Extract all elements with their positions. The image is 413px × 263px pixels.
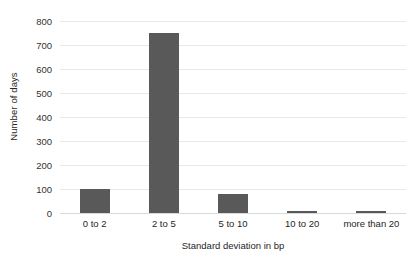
gridline — [60, 213, 406, 214]
bar-chart-figure: Number of days 0100200300400500600700800… — [0, 0, 413, 263]
bar — [218, 194, 248, 213]
y-axis-tick-label: 700 — [36, 40, 52, 51]
bar — [356, 211, 386, 213]
y-axis-tick-label: 500 — [36, 88, 52, 99]
x-axis-tick-label: 10 to 20 — [285, 218, 319, 229]
y-axis-tick-labels: 0100200300400500600700800 — [20, 21, 56, 213]
x-axis-tick-label: 5 to 10 — [218, 218, 247, 229]
y-axis-tick-label: 0 — [47, 208, 52, 219]
x-axis-tick-label: more than 20 — [343, 218, 399, 229]
bar — [80, 189, 110, 213]
y-axis-title-text: Number of days — [8, 72, 19, 140]
x-axis-tick-label: 2 to 5 — [152, 218, 176, 229]
bars-layer — [60, 21, 406, 213]
y-axis-tick-label: 800 — [36, 16, 52, 27]
x-axis-tick-label: 0 to 2 — [83, 218, 107, 229]
y-axis-tick-label: 600 — [36, 64, 52, 75]
x-axis-title: Standard deviation in bp — [60, 240, 406, 251]
bar — [149, 33, 179, 213]
x-axis-tick-labels: 0 to 22 to 55 to 1010 to 20more than 20 — [60, 218, 406, 234]
plot-area — [60, 21, 406, 213]
y-axis-tick-label: 100 — [36, 184, 52, 195]
bar — [287, 211, 317, 213]
y-axis-tick-label: 400 — [36, 112, 52, 123]
y-axis-tick-label: 300 — [36, 136, 52, 147]
y-axis-tick-label: 200 — [36, 160, 52, 171]
